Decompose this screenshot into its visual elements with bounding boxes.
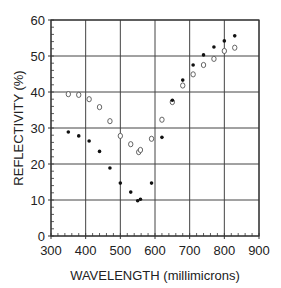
reflectivity-chart: 300400500600700800900 0102030405060 WAVE…: [0, 0, 281, 288]
y-tick-label: 20: [31, 157, 45, 172]
x-tick-label: 500: [109, 243, 131, 258]
x-axis-label: WAVELENGTH (millimicrons): [70, 268, 240, 283]
open-circle-marker: [191, 72, 195, 77]
filled-dot-marker: [87, 139, 91, 143]
filled-dot-marker: [119, 181, 123, 185]
open-circle-marker: [77, 92, 81, 97]
y-axis-tick-labels: 0102030405060: [31, 13, 45, 244]
x-tick-label: 400: [75, 243, 97, 258]
open-circle-marker: [212, 56, 216, 61]
filled-dot-marker: [202, 53, 206, 57]
filled-dot-marker: [98, 150, 102, 154]
open-circle-marker: [222, 48, 226, 53]
minor-ticks: [48, 20, 259, 239]
filled-dot-marker: [108, 166, 112, 170]
open-circle-marker: [66, 92, 70, 97]
filled-dot-marker: [139, 197, 143, 201]
x-axis-tick-labels: 300400500600700800900: [40, 243, 270, 258]
filled-dot-marker: [212, 45, 216, 49]
open-circle-marker: [87, 97, 91, 102]
filled-dot-marker: [150, 181, 154, 185]
open-circle-marker: [108, 119, 112, 124]
open-circles-series: [66, 45, 237, 155]
y-tick-label: 10: [31, 193, 45, 208]
open-circle-marker: [181, 83, 185, 88]
x-tick-label: 600: [144, 243, 166, 258]
filled-dot-marker: [129, 190, 133, 194]
filled-dot-marker: [233, 34, 237, 38]
filled-dot-marker: [223, 39, 227, 43]
open-circle-marker: [118, 133, 122, 138]
data-points: [66, 34, 237, 202]
grid-lines: [51, 20, 259, 236]
open-circle-marker: [149, 136, 153, 141]
open-circle-marker: [160, 117, 164, 122]
y-tick-label: 30: [31, 121, 45, 136]
filled-dot-marker: [67, 130, 71, 134]
filled-dot-marker: [181, 78, 185, 82]
x-tick-label: 800: [213, 243, 235, 258]
filled-dot-marker: [191, 63, 195, 67]
filled-dot-marker: [171, 98, 175, 102]
x-tick-label: 700: [179, 243, 201, 258]
filled-dot-marker: [160, 136, 164, 140]
open-circle-marker: [201, 62, 205, 67]
filled-dot-marker: [77, 134, 81, 138]
x-tick-label: 900: [248, 243, 270, 258]
open-circle-marker: [233, 45, 237, 50]
open-circle-marker: [97, 105, 101, 110]
open-circle-marker: [129, 142, 133, 147]
y-tick-label: 50: [31, 49, 45, 64]
y-tick-label: 40: [31, 85, 45, 100]
y-tick-label: 0: [38, 229, 45, 244]
y-axis-label: REFLECTIVITY (%): [11, 70, 26, 185]
filled-dots-series: [67, 34, 237, 202]
y-tick-label: 60: [31, 13, 45, 28]
x-tick-label: 300: [40, 243, 62, 258]
open-circle-marker: [138, 147, 142, 152]
